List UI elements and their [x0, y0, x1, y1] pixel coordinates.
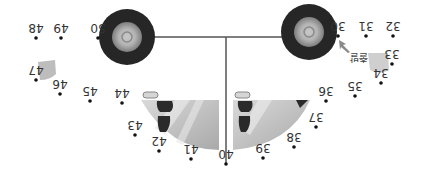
dot-number-label: 34 [373, 66, 388, 80]
dot-marker[interactable] [189, 157, 193, 161]
dot-number-label: 35 [347, 79, 362, 93]
dot-to-dot-worksheet: 출발 3031323334353637383940414243444546474… [0, 0, 422, 189]
dot-marker[interactable] [34, 78, 38, 82]
dot-43[interactable]: 43 [127, 118, 142, 137]
dot-39[interactable]: 39 [255, 141, 270, 160]
dot-marker[interactable] [336, 34, 340, 38]
dot-44[interactable]: 44 [114, 86, 129, 105]
dot-number-label: 45 [82, 84, 97, 98]
dot-42[interactable]: 42 [151, 134, 166, 153]
dot-48[interactable]: 48 [28, 21, 43, 40]
wheel-right [281, 4, 337, 60]
dot-46[interactable]: 46 [52, 77, 67, 96]
dot-number-label: 32 [385, 19, 400, 33]
dot-number-label: 44 [114, 86, 129, 100]
dot-number-label: 40 [218, 147, 233, 161]
dot-number-label: 49 [53, 21, 68, 35]
light-right [235, 92, 250, 98]
dot-number-label: 33 [384, 47, 399, 61]
dot-number-label: 31 [358, 19, 373, 33]
dot-marker[interactable] [224, 162, 228, 166]
dot-number-label: 42 [151, 134, 166, 148]
dot-number-label: 50 [90, 21, 105, 35]
dot-34[interactable]: 34 [373, 66, 388, 85]
dot-marker[interactable] [96, 36, 100, 40]
dot-number-label: 39 [255, 141, 270, 155]
light-left [143, 92, 158, 98]
dot-marker[interactable] [390, 62, 394, 66]
start-arrow-icon [339, 40, 350, 53]
dot-31[interactable]: 31 [358, 19, 373, 38]
dot-marker[interactable] [379, 81, 383, 85]
dot-36[interactable]: 36 [318, 84, 333, 103]
dot-marker[interactable] [58, 92, 62, 96]
dot-number-label: 47 [28, 63, 43, 77]
dot-45[interactable]: 45 [82, 84, 97, 103]
start-label: 출발 [350, 52, 368, 63]
dot-marker[interactable] [59, 36, 63, 40]
dot-37[interactable]: 37 [308, 110, 323, 129]
dot-number-label: 30 [330, 19, 345, 33]
dot-marker[interactable] [364, 34, 368, 38]
dot-marker[interactable] [314, 125, 318, 129]
dot-number-label: 37 [308, 110, 323, 124]
dot-marker[interactable] [391, 34, 395, 38]
dot-number-label: 41 [183, 142, 198, 156]
dot-number-label: 36 [318, 84, 333, 98]
dot-marker[interactable] [157, 149, 161, 153]
dot-marker[interactable] [261, 156, 265, 160]
dot-35[interactable]: 35 [347, 79, 362, 98]
dot-32[interactable]: 32 [385, 19, 400, 38]
dot-number-label: 46 [52, 77, 67, 91]
dot-marker[interactable] [120, 101, 124, 105]
dot-49[interactable]: 49 [53, 21, 68, 40]
wheel-left [99, 9, 155, 65]
dot-40[interactable]: 40 [218, 147, 233, 166]
dot-marker[interactable] [324, 99, 328, 103]
dot-marker[interactable] [34, 36, 38, 40]
dot-marker[interactable] [353, 94, 357, 98]
dot-38[interactable]: 38 [286, 130, 301, 149]
dot-number-label: 38 [286, 130, 301, 144]
dot-marker[interactable] [292, 145, 296, 149]
dot-number-label: 48 [28, 21, 43, 35]
dot-41[interactable]: 41 [183, 142, 198, 161]
dot-number-label: 43 [127, 118, 142, 132]
dot-marker[interactable] [88, 99, 92, 103]
dot-marker[interactable] [133, 133, 137, 137]
